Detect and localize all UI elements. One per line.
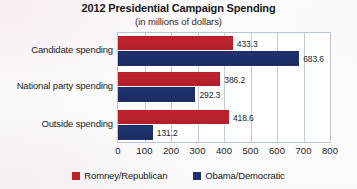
gridline [304, 33, 305, 142]
bar-democratic [118, 87, 195, 102]
x-tick-label: 300 [190, 145, 206, 156]
x-tick-label: 100 [137, 145, 153, 156]
x-tick-label: 400 [216, 145, 232, 156]
legend-swatch-icon [72, 172, 80, 180]
bar-democratic [118, 51, 299, 66]
bar-value-label: 418.6 [233, 113, 254, 123]
bar-value-label: 683.6 [303, 54, 324, 64]
bar-republican [118, 72, 220, 87]
legend-label: Romney/Republican [84, 170, 167, 181]
x-axis-tick-labels: 0100200300400500600700800 [117, 145, 331, 159]
bar-value-label: 433.3 [237, 39, 258, 49]
bar-republican [118, 110, 229, 125]
chart-title: 2012 Presidential Campaign Spending [0, 2, 357, 14]
chart-legend: Romney/RepublicanObama/Democratic [0, 170, 357, 181]
x-tick-label: 600 [269, 145, 285, 156]
bar-democratic [118, 125, 153, 140]
x-tick-label: 500 [243, 145, 259, 156]
legend-label: Obama/Democratic [205, 170, 284, 181]
x-tick-label: 200 [163, 145, 179, 156]
bar-republican [118, 36, 233, 51]
gridline [251, 33, 252, 142]
bar-value-label: 131.2 [157, 128, 178, 138]
plot-area: 433.3683.6386.2292.3418.6131.2 [117, 32, 331, 143]
gridline [277, 33, 278, 142]
legend-item: Obama/Democratic [193, 170, 284, 181]
bar-value-label: 386.2 [224, 75, 245, 85]
category-axis-labels: Candidate spendingNational party spendin… [0, 32, 113, 143]
x-tick-label: 0 [115, 145, 120, 156]
category-label: National party spending [17, 80, 113, 91]
category-label: Outside spending [41, 118, 113, 129]
chart-subtitle: (in millions of dollars) [0, 16, 357, 27]
bar-value-label: 292.3 [199, 90, 220, 100]
category-label: Candidate spending [31, 44, 113, 55]
legend-swatch-icon [193, 172, 201, 180]
legend-item: Romney/Republican [72, 170, 167, 181]
chart-screenshot: 2012 Presidential Campaign Spending (in … [0, 0, 357, 189]
x-tick-label: 800 [322, 145, 338, 156]
x-tick-label: 700 [296, 145, 312, 156]
